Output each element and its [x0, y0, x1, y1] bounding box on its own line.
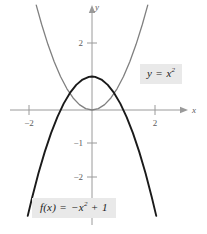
label-dark-constant: 1: [102, 201, 108, 213]
x-tick-label-pos2: 2: [153, 118, 158, 128]
x-tick-label-neg2: −2: [24, 118, 34, 128]
x-axis-name-label: x: [191, 105, 196, 115]
y-axis-name-label: y: [94, 2, 99, 12]
label-y-equals-x-squared: y = x2: [140, 64, 182, 84]
label-gray-equals: =: [155, 67, 163, 79]
x-axis-arrowhead: [180, 107, 188, 113]
label-dark-plus: +: [91, 201, 99, 213]
label-dark-equals: =: [59, 201, 67, 213]
label-gray-exponent: 2: [172, 66, 176, 74]
label-dark-lhs: f(x): [40, 201, 56, 213]
label-dark-minus: −: [70, 201, 78, 213]
label-f-of-x-equation: f(x) = −x2 + 1: [32, 198, 116, 218]
y-tick-label-pos2: 2: [79, 38, 84, 48]
label-dark-exponent: 2: [84, 200, 88, 208]
label-gray-lhs: y: [147, 67, 152, 79]
graph-figure: −2 2 2 −1 −2 x y y = x2 f(x) = −x2 + 1: [0, 0, 207, 234]
y-tick-label-neg1: −1: [73, 138, 83, 148]
y-tick-label-neg2: −2: [73, 172, 83, 182]
